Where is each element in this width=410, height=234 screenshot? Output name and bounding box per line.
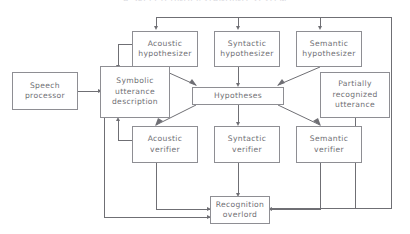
syntactic-hyp-line2: hypothesizer [220,49,273,60]
node-semantic-verifier[interactable]: Semantic verifier [296,126,362,163]
partial-utterance-line2: recognized [332,90,377,101]
node-hypotheses[interactable]: Hypotheses [192,87,284,105]
node-speech-processor[interactable]: Speech processor [12,72,78,110]
syntactic-ver-line1: Syntactic [228,134,266,145]
node-acoustic-verifier[interactable]: Acoustic verifier [132,126,198,163]
symbolic-utterance-line3: description [112,97,158,108]
node-symbolic-utterance-description[interactable]: Symbolic utterance description [100,66,170,118]
speech-processor-line2: processor [25,91,65,102]
acoustic-hyp-line2: hypothesizer [138,49,191,60]
node-recognition-overlord[interactable]: Recognition overlord [210,196,270,224]
symbolic-utterance-line2: utterance [115,87,155,98]
recognition-overlord-line1: Recognition [216,200,265,211]
syntactic-hyp-line1: Syntactic [228,39,266,50]
acoustic-ver-line2: verifier [150,145,180,156]
node-syntactic-hypothesizer[interactable]: Syntactic hypothesizer [214,31,280,67]
partial-utterance-line1: Partially [338,79,372,90]
semantic-hyp-line1: Semantic [310,39,348,50]
semantic-ver-line1: Semantic [310,134,348,145]
syntactic-ver-line2: verifier [232,145,262,156]
acoustic-hyp-line1: Acoustic [148,39,183,50]
node-partially-recognized-utterance[interactable]: Partially recognized utterance [320,72,390,118]
semantic-ver-line2: verifier [314,145,344,156]
hypotheses-label: Hypotheses [214,91,262,102]
acoustic-ver-line1: Acoustic [148,134,183,145]
symbolic-utterance-line1: Symbolic [116,76,153,87]
node-semantic-hypothesizer[interactable]: Semantic hypothesizer [296,31,362,67]
node-syntactic-verifier[interactable]: Syntactic verifier [214,126,280,163]
partial-utterance-line3: utterance [335,100,375,111]
semantic-hyp-line2: hypothesizer [302,49,355,60]
recognition-overlord-line2: overlord [223,210,257,221]
diagram-canvas: A SPEECH UNDERSTANDING SYSTEM [0,0,410,234]
speech-processor-line1: Speech [30,81,60,92]
node-acoustic-hypothesizer[interactable]: Acoustic hypothesizer [132,31,198,67]
